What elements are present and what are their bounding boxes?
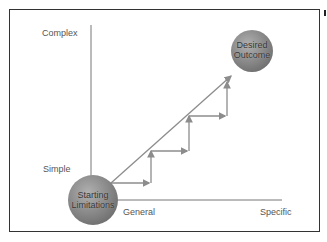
start-node-line2: Limitations bbox=[66, 200, 120, 210]
end-node-line1: Desired bbox=[227, 40, 277, 50]
y-axis-bottom-label: Simple bbox=[43, 164, 71, 174]
end-node-label: Desired Outcome bbox=[227, 40, 277, 60]
start-node-line1: Starting bbox=[66, 190, 120, 200]
diagonal-arrow bbox=[111, 76, 231, 183]
end-node-line2: Outcome bbox=[227, 50, 277, 60]
start-node-label: Starting Limitations bbox=[66, 190, 120, 210]
y-axis-top-label: Complex bbox=[42, 28, 78, 38]
x-axis-right-label: Specific bbox=[260, 207, 292, 217]
x-axis-left-label: General bbox=[123, 207, 155, 217]
